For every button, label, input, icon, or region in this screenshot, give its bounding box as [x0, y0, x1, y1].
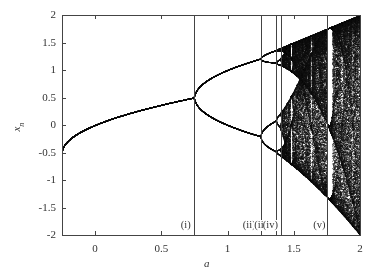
x-tick-label: 1.5: [279, 243, 309, 254]
region-marker-label: (iv): [263, 220, 278, 231]
bifurcation-plot: [0, 0, 376, 278]
y-tick-label: 0.5: [26, 92, 56, 103]
x-axis-title: a: [204, 258, 210, 269]
y-axis-title: xn: [11, 123, 25, 132]
y-tick-label: -1: [26, 174, 56, 185]
x-tick-label: 1: [213, 243, 243, 254]
x-tick-label: 0: [80, 243, 110, 254]
region-marker-label: (v): [313, 220, 325, 231]
y-tick-label: 2: [26, 9, 56, 20]
y-tick-label: 1: [26, 64, 56, 75]
x-tick-label: 2: [345, 243, 375, 254]
y-tick-label: -1.5: [26, 202, 56, 213]
y-tick-label: -0.5: [26, 147, 56, 158]
y-tick-label: 0: [26, 119, 56, 130]
y-tick-label: -2: [26, 229, 56, 240]
region-marker-label: (i): [181, 220, 191, 231]
x-tick-label: 0.5: [146, 243, 176, 254]
y-tick-label: 1.5: [26, 37, 56, 48]
